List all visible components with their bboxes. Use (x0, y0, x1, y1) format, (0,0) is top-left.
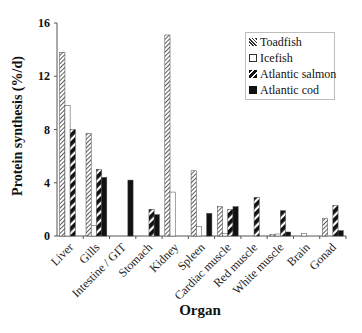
bar (270, 235, 275, 236)
x-axis-label: Organ (160, 302, 240, 319)
bar (91, 225, 96, 236)
bar (196, 227, 201, 236)
legend-item-icefish: Icefish (249, 51, 293, 65)
bar (254, 197, 259, 236)
bar (170, 192, 175, 236)
legend: Toadfish Icefish Atlantic salmon Atlanti… (245, 32, 335, 100)
bar (149, 209, 154, 236)
hatch-swatch-icon (249, 38, 257, 46)
bar (86, 133, 91, 236)
bar (128, 180, 133, 236)
x-tick-label: Liver (48, 240, 76, 268)
bar (280, 211, 285, 236)
bar (102, 177, 107, 236)
bar (233, 207, 238, 236)
x-tick-labels: LiverGillsIntestine / GITStomachKidneySp… (48, 240, 339, 303)
legend-label: Atlantic salmon (260, 67, 336, 81)
bar (207, 213, 212, 236)
bar (65, 106, 70, 236)
x-tick-label: Kidney (146, 240, 181, 275)
open-square-icon (249, 54, 257, 62)
bar (96, 169, 101, 236)
bar (165, 35, 170, 236)
bar (154, 215, 159, 236)
bar (191, 171, 196, 236)
legend-label: Icefish (260, 51, 293, 65)
legend-item-atlantic-salmon: Atlantic salmon (249, 67, 336, 81)
y-tick-label: 4 (44, 176, 50, 190)
y-tick-label: 16 (38, 16, 50, 30)
bar (70, 130, 75, 237)
y-tick-label: 0 (44, 229, 50, 243)
bar (60, 52, 65, 236)
legend-item-atlantic-cod: Atlantic cod (249, 83, 319, 97)
solid-square-icon (249, 86, 257, 94)
y-axis-label: Protein synthesis (%/d) (10, 46, 26, 206)
legend-label: Atlantic cod (260, 83, 319, 97)
legend-item-toadfish: Toadfish (249, 35, 302, 49)
y-tick-label: 12 (38, 69, 50, 83)
y-tick-label: 8 (44, 123, 50, 137)
bar (217, 207, 222, 236)
bar (333, 205, 338, 236)
bar-chart: 0481216 LiverGillsIntestine / GITStomach… (0, 0, 362, 333)
bar (322, 219, 327, 236)
x-tick-label: Gonad (306, 240, 339, 273)
bar (223, 233, 228, 236)
bar (275, 234, 280, 236)
legend-label: Toadfish (260, 35, 302, 49)
bar (286, 232, 291, 236)
bar (338, 231, 343, 236)
bar (301, 233, 306, 236)
stripe-swatch-icon (249, 70, 257, 78)
bar (228, 209, 233, 236)
